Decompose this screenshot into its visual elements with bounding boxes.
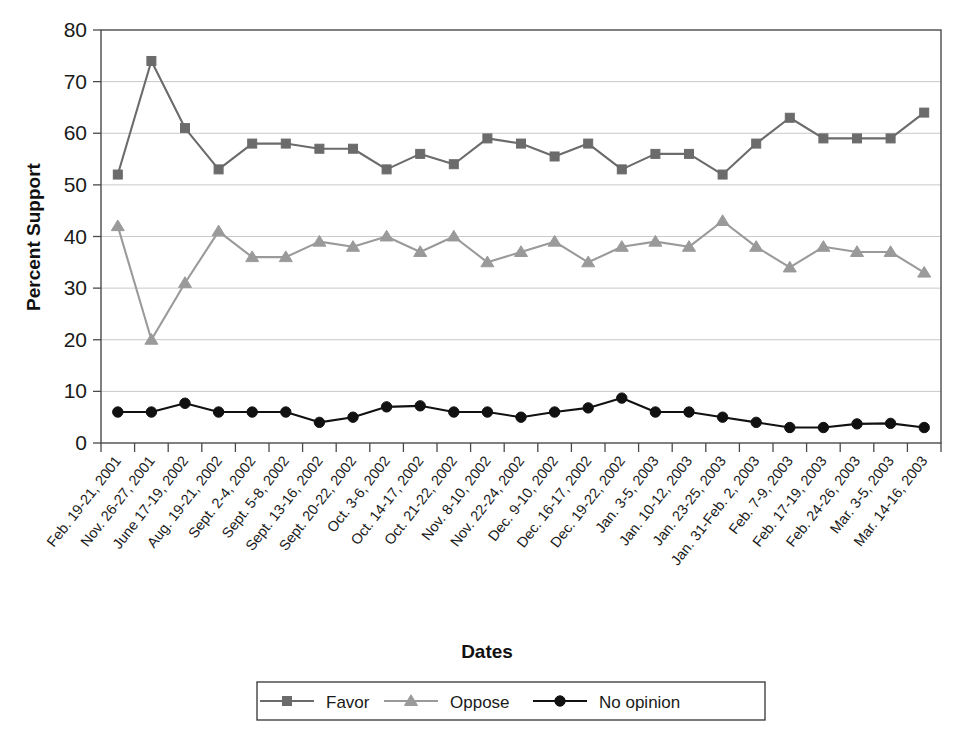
y-tick-label: 60 — [64, 121, 87, 144]
data-point — [348, 412, 358, 422]
data-point — [315, 144, 324, 153]
data-point — [382, 165, 391, 174]
data-point — [783, 261, 796, 272]
legend-label: Oppose — [450, 693, 510, 712]
data-point — [886, 134, 895, 143]
legend-marker-square-icon — [283, 697, 292, 706]
data-point — [751, 417, 761, 427]
y-axis-tickmarks — [93, 30, 101, 443]
legend-label: No opinion — [599, 693, 680, 712]
data-point — [247, 407, 257, 417]
y-tick-label: 40 — [64, 225, 87, 248]
y-tick-label: 50 — [64, 173, 87, 196]
y-tick-label: 80 — [64, 18, 87, 41]
data-point — [281, 139, 290, 148]
data-point — [583, 403, 593, 413]
data-point — [449, 160, 458, 169]
data-point — [617, 165, 626, 174]
data-point — [650, 407, 660, 417]
data-point — [147, 56, 156, 65]
y-tick-label: 70 — [64, 70, 87, 93]
series-no-opinion — [113, 393, 930, 433]
y-tick-label: 20 — [64, 328, 87, 351]
data-point — [381, 402, 391, 412]
data-point — [314, 417, 324, 427]
data-point — [718, 170, 727, 179]
data-point — [752, 139, 761, 148]
data-point — [785, 422, 795, 432]
data-series-layer — [111, 56, 930, 432]
y-tick-label: 0 — [75, 431, 87, 454]
data-point — [214, 165, 223, 174]
data-point — [853, 134, 862, 143]
data-point — [819, 134, 828, 143]
data-point — [918, 266, 931, 277]
data-point — [584, 139, 593, 148]
data-point — [649, 235, 662, 246]
data-point — [549, 407, 559, 417]
data-point — [212, 225, 225, 236]
y-axis-tick-labels: 01020304050607080 — [64, 18, 87, 454]
data-point — [684, 407, 694, 417]
data-point — [248, 139, 257, 148]
data-point — [281, 407, 291, 417]
data-point — [415, 401, 425, 411]
data-point — [113, 170, 122, 179]
y-tick-label: 10 — [64, 379, 87, 402]
data-point — [414, 246, 427, 257]
data-point — [651, 149, 660, 158]
y-tick-label: 30 — [64, 276, 87, 299]
legend-marker-circle-icon — [555, 696, 565, 706]
data-point — [517, 139, 526, 148]
data-point — [483, 134, 492, 143]
data-point — [685, 149, 694, 158]
line-chart: 01020304050607080 Feb. 19-21, 2001Nov. 2… — [0, 0, 963, 740]
data-point — [380, 230, 393, 241]
data-point — [716, 215, 729, 226]
data-point — [919, 422, 929, 432]
data-point — [145, 334, 158, 345]
data-point — [180, 398, 190, 408]
data-point — [449, 407, 459, 417]
x-axis-title: Dates — [461, 641, 513, 662]
data-point — [548, 235, 561, 246]
series-oppose — [111, 215, 930, 344]
data-point — [550, 152, 559, 161]
data-point — [113, 407, 123, 417]
data-point — [213, 407, 223, 417]
data-point — [178, 277, 191, 288]
data-point — [852, 419, 862, 429]
data-point — [818, 422, 828, 432]
data-point — [313, 235, 326, 246]
series-favor — [113, 56, 928, 179]
data-point — [817, 241, 830, 252]
data-point — [582, 256, 595, 267]
data-point — [617, 393, 627, 403]
x-axis-tickmarks — [101, 443, 941, 452]
data-point — [482, 407, 492, 417]
chart-container: 01020304050607080 Feb. 19-21, 2001Nov. 2… — [0, 0, 963, 740]
data-point — [885, 418, 895, 428]
data-point — [349, 144, 358, 153]
data-point — [516, 412, 526, 422]
data-point — [920, 108, 929, 117]
data-point — [717, 412, 727, 422]
data-point — [416, 149, 425, 158]
x-axis-tick-labels: Feb. 19-21, 2001Nov. 26-27, 2001June 17-… — [44, 453, 931, 568]
legend-label: Favor — [326, 693, 370, 712]
y-axis-title: Percent Support — [23, 162, 44, 310]
data-point — [785, 113, 794, 122]
data-point — [447, 230, 460, 241]
data-point — [181, 124, 190, 133]
series-line — [118, 221, 924, 340]
series-line — [118, 61, 924, 175]
data-point — [111, 220, 124, 231]
data-point — [146, 407, 156, 417]
